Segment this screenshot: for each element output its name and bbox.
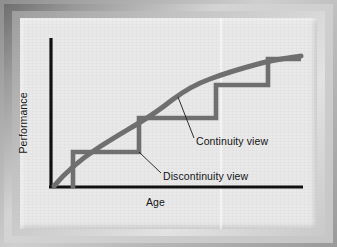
annotation-continuity-view: Continuity view: [196, 135, 268, 147]
annotation-discontinuity-view: Discontinuity view: [163, 170, 248, 182]
chart-svg: [0, 0, 337, 247]
x-axis-label: Age: [146, 196, 165, 208]
figure-container: Performance Age Continuity view Disconti…: [0, 0, 337, 247]
series-continuity-curve: [54, 56, 301, 186]
leader-line-discontinuity: [139, 152, 161, 173]
series-discontinuity-step: [73, 59, 301, 188]
y-axis-label: Performance: [17, 83, 29, 163]
